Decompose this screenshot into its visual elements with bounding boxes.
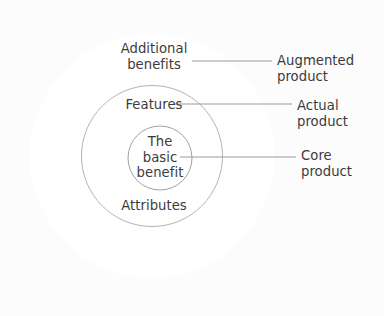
- label-augmented-product: Augmented product: [277, 53, 377, 84]
- label-features: Features: [100, 97, 208, 113]
- label-additional-benefits: Additional benefits: [92, 41, 216, 72]
- label-basic-benefit: The basic benefit: [124, 134, 196, 181]
- label-core-product: Core product: [301, 148, 381, 179]
- label-actual-product: Actual product: [297, 98, 381, 129]
- label-attributes: Attributes: [100, 198, 208, 214]
- diagram-canvas: Additional benefits Features The basic b…: [0, 0, 384, 316]
